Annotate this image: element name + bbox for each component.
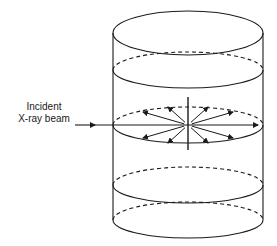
cylinder-section-3-front-arc [113, 185, 263, 203]
scattered-rays [143, 97, 233, 150]
cylinder-bottom-back-arc [113, 202, 263, 220]
scattered-ray-arrow-8 [192, 126, 233, 138]
scattered-ray-arrow-1 [143, 112, 184, 124]
cylinder-section-1-front-arc [113, 70, 263, 88]
incident-beam-label-line2: X-ray beam [14, 113, 74, 125]
cylinder-bottom-front-arc [113, 220, 263, 238]
incident-beam-label-line1: Incident [14, 101, 74, 113]
cylinder-top-ellipse [113, 11, 263, 55]
cylinder-section-3-back-arc [113, 167, 263, 185]
scattered-ray-arrow-5 [143, 126, 184, 138]
scattered-ray-arrow-4 [192, 112, 233, 124]
